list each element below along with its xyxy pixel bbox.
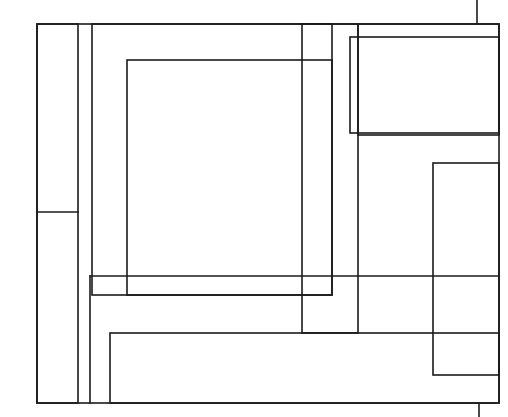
right-tall-rect — [433, 163, 499, 375]
upper-left-large-rect — [92, 24, 332, 295]
top-right-outer-rect — [358, 24, 499, 135]
outer-frame-rect — [37, 24, 499, 403]
left-narrow-column-rect — [37, 24, 78, 403]
drawing-canvas — [0, 0, 508, 417]
rectangle-shape-layer — [37, 24, 499, 403]
top-right-inner-rect — [350, 37, 499, 133]
line-drawing-figure — [0, 0, 508, 417]
line-segment-layer — [37, 0, 499, 417]
bottom-wide-rect — [110, 333, 499, 403]
